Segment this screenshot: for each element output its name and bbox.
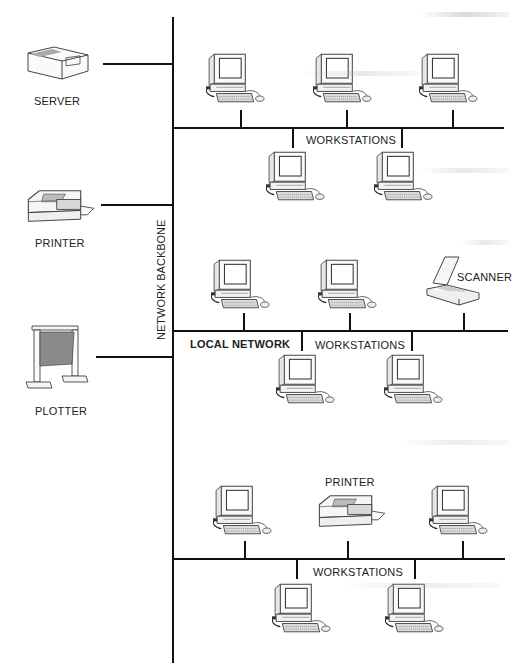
- segment-2-label: WORKSTATIONS: [315, 339, 405, 351]
- printer-icon: [24, 185, 96, 225]
- server-device: [22, 45, 94, 85]
- printer-link: [101, 204, 174, 206]
- workstation-icon: [276, 353, 336, 405]
- scan-artifact: [400, 440, 510, 445]
- server-link: [103, 63, 174, 65]
- drop-1c: [452, 110, 454, 128]
- printer-device-left: [24, 185, 96, 225]
- drop-1d: [292, 128, 294, 148]
- drop-2e: [411, 331, 413, 351]
- drop-3e: [414, 559, 416, 579]
- workstation-icon: [213, 484, 273, 536]
- drop-3c: [462, 541, 464, 559]
- backbone-label: NETWORK BACKBONE: [155, 220, 167, 340]
- plotter-device: [24, 322, 96, 392]
- workstation-icon: [419, 52, 479, 104]
- printer-label-left: PRINTER: [35, 237, 85, 249]
- drop-2a: [243, 313, 245, 331]
- scanner-label: SCANNER: [457, 271, 512, 283]
- drop-2c: [463, 313, 465, 331]
- plotter-label: PLOTTER: [35, 405, 87, 417]
- drop-3b: [347, 541, 349, 559]
- workstation-icon: [384, 353, 444, 405]
- printer-label-segment: PRINTER: [325, 476, 375, 488]
- drop-2b: [349, 313, 351, 331]
- plotter-icon: [24, 322, 96, 392]
- segment-1-label: WORKSTATIONS: [306, 134, 396, 146]
- segment-2-bus: [173, 330, 508, 332]
- workstation-icon: [313, 52, 373, 104]
- drop-1e: [401, 128, 403, 148]
- plotter-link: [96, 356, 174, 358]
- workstation-icon: [429, 484, 489, 536]
- segment-3-bus: [173, 558, 505, 560]
- scan-artifact: [460, 240, 510, 245]
- workstation-icon: [374, 150, 434, 202]
- workstation-icon: [385, 582, 445, 634]
- workstation-icon: [318, 258, 378, 310]
- local-network-label: LOCAL NETWORK: [190, 338, 290, 350]
- workstation-icon: [206, 52, 266, 104]
- drop-1a: [240, 110, 242, 128]
- scan-artifact: [420, 168, 510, 173]
- drop-3a: [244, 541, 246, 559]
- drop-2d: [301, 331, 303, 351]
- server-label: SERVER: [34, 95, 80, 107]
- segment-3-label: WORKSTATIONS: [313, 566, 403, 578]
- server-icon: [22, 45, 94, 85]
- drop-3d: [296, 559, 298, 579]
- scan-artifact: [340, 583, 500, 588]
- workstation-icon: [272, 582, 332, 634]
- drop-1b: [346, 110, 348, 128]
- network-backbone: [172, 17, 174, 663]
- segment-1-bus: [173, 127, 504, 129]
- workstation-icon: [266, 150, 326, 202]
- scan-artifact: [420, 12, 510, 17]
- workstation-icon: [211, 258, 271, 310]
- printer-icon: [315, 490, 387, 530]
- scan-artifact: [300, 71, 420, 76]
